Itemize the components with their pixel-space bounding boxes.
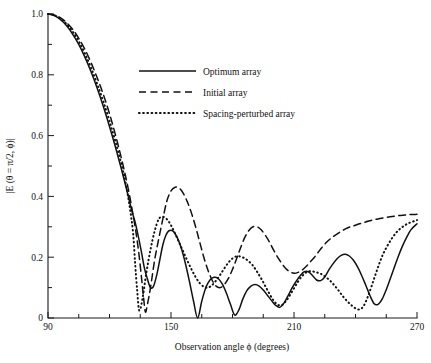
data-curves <box>48 14 417 318</box>
x-axis-ticks <box>48 312 417 318</box>
y-tick-label: 0.4 <box>31 192 43 202</box>
y-tick-label: 0.6 <box>31 131 43 141</box>
x-axis-tick-labels: 90150210270 <box>43 322 424 332</box>
curve-optimum-array <box>48 14 417 318</box>
y-tick-label: 1.0 <box>31 9 43 19</box>
y-axis-title: |E (θ = π/2, ϕ)| <box>5 138 16 193</box>
y-axis-ticks <box>48 14 54 318</box>
legend-label-optimum-array: Optimum array <box>203 67 262 77</box>
curve-initial-array <box>48 14 417 312</box>
x-tick-label: 90 <box>43 322 53 332</box>
chart-svg: 90150210270 00.20.40.60.81.0 Optimum arr… <box>0 0 431 363</box>
legend-label-initial-array: Initial array <box>203 88 248 98</box>
curve-spacing-perturbed-array <box>48 14 417 311</box>
y-tick-label: 0.2 <box>31 253 43 263</box>
radiation-pattern-chart: 90150210270 00.20.40.60.81.0 Optimum arr… <box>0 0 431 363</box>
x-tick-label: 210 <box>287 322 302 332</box>
y-tick-label: 0.8 <box>31 70 43 80</box>
x-tick-label: 270 <box>410 322 425 332</box>
y-tick-label: 0 <box>38 313 43 323</box>
x-tick-label: 150 <box>164 322 179 332</box>
legend-label-spacing-perturbed-array: Spacing-perturbed array <box>203 109 295 119</box>
legend: Optimum array Initial array Spacing-pert… <box>139 67 295 119</box>
y-axis-tick-labels: 00.20.40.60.81.0 <box>31 9 43 323</box>
axis-frame <box>48 14 417 318</box>
x-axis-title: Observation angle ϕ (degrees) <box>175 342 289 353</box>
